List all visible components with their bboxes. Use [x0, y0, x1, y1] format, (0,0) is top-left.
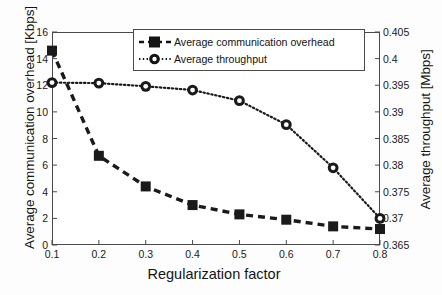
- data-point-marker: [281, 215, 291, 225]
- axis-tick-label: 10: [18, 106, 48, 118]
- legend-item-throughput: Average throughput: [138, 50, 360, 67]
- axis-tick-label: 0.7: [316, 248, 350, 260]
- data-point-marker: [234, 209, 244, 219]
- axis-tick-label: 0.4: [176, 248, 210, 260]
- axis-tick-label: 0.39: [383, 106, 417, 118]
- axis-tick-label: 0.375: [383, 186, 417, 198]
- data-point-marker-inner: [284, 122, 289, 127]
- axis-tick-label: 0.405: [383, 26, 417, 38]
- data-point-marker: [328, 221, 338, 231]
- data-point-marker-inner: [331, 165, 336, 170]
- data-point-marker: [47, 46, 57, 56]
- square-dashed-sample-icon: [138, 34, 172, 50]
- data-point-marker-inner: [378, 216, 383, 221]
- axis-tick-label: 4: [18, 186, 48, 198]
- chart-figure: Average communication overhead [Kbps] Av…: [0, 0, 442, 295]
- data-point-marker: [94, 151, 104, 161]
- axis-tick-label: 2: [18, 212, 48, 224]
- data-point-marker: [141, 181, 151, 191]
- axis-tick-label: 0.395: [383, 79, 417, 91]
- axis-tick-label: 0.385: [383, 133, 417, 145]
- axis-tick-label: 0.2: [82, 248, 116, 260]
- axis-tick-label: 0.4: [383, 53, 417, 65]
- data-point-marker-inner: [143, 84, 148, 89]
- data-point-marker-inner: [237, 98, 242, 103]
- data-point-marker-inner: [96, 81, 101, 86]
- circle-dotted-sample-icon: [138, 51, 172, 67]
- axis-tick-label: 0.37: [383, 212, 417, 224]
- data-point-marker-inner: [190, 88, 195, 93]
- axis-tick-label: 0.8: [363, 248, 397, 260]
- data-series-group: [47, 46, 386, 234]
- chart-legend: Average communication overhead Average t…: [133, 29, 365, 71]
- series-line: [52, 51, 380, 229]
- legend-label-throughput: Average throughput: [174, 53, 267, 65]
- legend-label-overhead: Average communication overhead: [174, 36, 335, 48]
- axis-tick-label: 8: [18, 133, 48, 145]
- series-line: [52, 83, 380, 219]
- axis-tick-label: 12: [18, 79, 48, 91]
- legend-item-overhead: Average communication overhead: [138, 33, 360, 50]
- axis-tick-label: 6: [18, 159, 48, 171]
- axis-tick-label: 0.6: [269, 248, 303, 260]
- axis-tick-label: 0.5: [222, 248, 256, 260]
- axis-tick-label: 0.3: [129, 248, 163, 260]
- data-point-marker: [375, 224, 385, 234]
- axis-tick-label: 0.38: [383, 159, 417, 171]
- data-point-marker: [188, 200, 198, 210]
- axis-tick-label: 16: [18, 26, 48, 38]
- axis-tick-label: 0.1: [35, 248, 69, 260]
- axis-tick-label: 14: [18, 53, 48, 65]
- data-point-marker-inner: [50, 80, 55, 85]
